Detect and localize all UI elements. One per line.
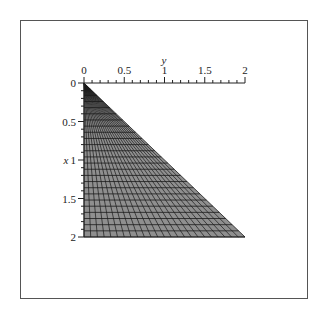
x-tick-label: 0 — [71, 77, 77, 89]
y-tick-label: 2 — [242, 64, 248, 76]
y-axis-title: y — [161, 54, 167, 66]
triangle-mesh — [84, 83, 245, 237]
x-tick-label: 2 — [71, 231, 77, 243]
x-tick-label: 1.5 — [62, 193, 76, 205]
x-tick-label: 0.5 — [62, 116, 76, 128]
region-fill — [84, 83, 245, 237]
y-tick-label: 0.5 — [117, 64, 131, 76]
y-tick-label: 0 — [81, 64, 87, 76]
x-axis-title: x — [63, 154, 69, 166]
y-axis-ticks: 00.511.52 — [81, 64, 248, 83]
surface-plot: 00.511.52 00.511.52 y x — [0, 0, 327, 315]
x-tick-label: 1 — [71, 154, 77, 166]
y-tick-label: 1.5 — [198, 64, 212, 76]
